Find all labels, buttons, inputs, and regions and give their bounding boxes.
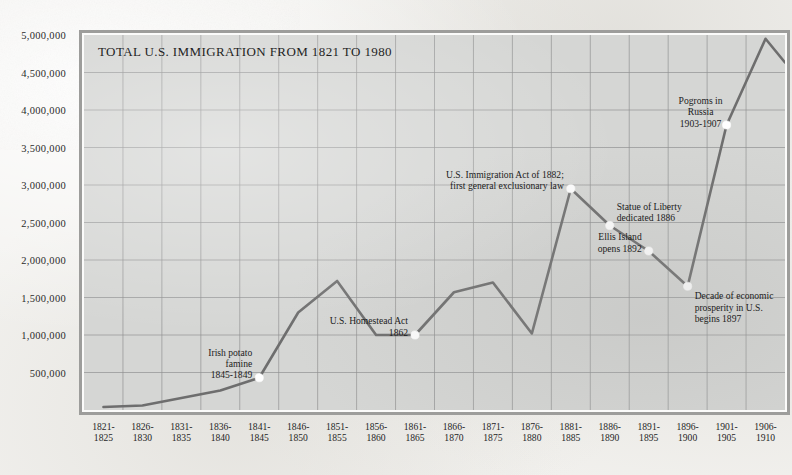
chart-annotation: U.S. Immigration Act of 1882; first gene… xyxy=(446,169,564,192)
chart-annotation: Irish potato famine 1845-1849 xyxy=(208,347,252,381)
chart-annotation: Decade of economic prosperity in U.S. be… xyxy=(695,290,774,324)
x-axis-tick: 1841- 1845 xyxy=(248,421,270,443)
chart-annotation: Statue of Liberty dedicated 1886 xyxy=(617,201,682,224)
chart-title: TOTAL U.S. IMMIGRATION FROM 1821 TO 1980 xyxy=(98,44,392,60)
x-axis-tick: 1886- 1890 xyxy=(599,421,621,443)
x-axis-tick: 1826- 1830 xyxy=(131,421,153,443)
x-axis-tick: 1861- 1865 xyxy=(404,421,426,443)
x-axis-tick: 1846- 1850 xyxy=(287,421,309,443)
y-axis-tick: 3,000,000 xyxy=(21,180,66,191)
y-axis-tick: 500,000 xyxy=(30,367,66,378)
x-axis-tick: 1866- 1870 xyxy=(443,421,465,443)
y-axis-tick: 4,000,000 xyxy=(21,105,66,116)
y-axis-tick: 1,000,000 xyxy=(21,330,66,341)
chart-frame-inset: TOTAL U.S. IMMIGRATION FROM 1821 TO 1980… xyxy=(82,33,787,412)
x-axis-tick: 1856- 1860 xyxy=(365,421,387,443)
y-axis-tick: 5,000,000 xyxy=(21,30,66,41)
plot-area: TOTAL U.S. IMMIGRATION FROM 1821 TO 1980… xyxy=(84,35,785,410)
y-axis-tick: 2,500,000 xyxy=(21,217,66,228)
x-axis-tick: 1876- 1880 xyxy=(521,421,543,443)
x-axis-tick: 1901- 1905 xyxy=(715,421,737,443)
chart-annotation: Ellis Island opens 1892 xyxy=(598,231,642,254)
x-axis-tick: 1906- 1910 xyxy=(754,421,776,443)
y-axis-tick: 3,500,000 xyxy=(21,142,66,153)
x-axis-tick: 1831- 1835 xyxy=(170,421,192,443)
chart-annotation: U.S. Homestead Act 1862 xyxy=(330,315,408,338)
x-axis-tick: 1896- 1900 xyxy=(676,421,698,443)
y-axis-tick: 4,500,000 xyxy=(21,67,66,78)
chart-frame: TOTAL U.S. IMMIGRATION FROM 1821 TO 1980… xyxy=(79,30,790,415)
x-axis-tick: 1821- 1825 xyxy=(92,421,114,443)
y-axis-tick: 1,500,000 xyxy=(21,292,66,303)
y-axis-labels: 5,000,0004,500,0004,000,0003,500,0003,00… xyxy=(0,0,74,475)
chart-annotation: Pogroms in Russia 1903-1907 xyxy=(679,95,723,129)
x-axis-tick: 1851- 1855 xyxy=(326,421,348,443)
x-axis-tick: 1881- 1885 xyxy=(560,421,582,443)
x-axis-tick: 1891- 1895 xyxy=(637,421,659,443)
x-axis-labels: 1821- 18251826- 18301831- 18351836- 1840… xyxy=(79,421,790,461)
x-axis-tick: 1871- 1875 xyxy=(482,421,504,443)
y-axis-tick: 2,000,000 xyxy=(21,255,66,266)
x-axis-tick: 1836- 1840 xyxy=(209,421,231,443)
